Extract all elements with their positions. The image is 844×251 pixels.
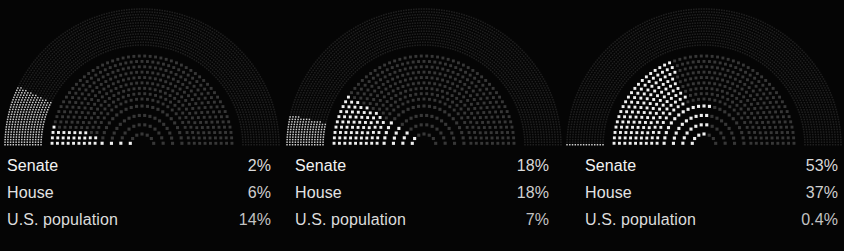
legend-value-house: 37% <box>806 179 838 206</box>
legend-label-population: U.S. population <box>585 206 696 233</box>
legend-row-senate: Senate 2% <box>0 152 282 179</box>
legend-row-population: U.S. population 7% <box>282 206 564 233</box>
legend-row-senate: Senate 53% <box>564 152 844 179</box>
legend-table-1: Senate 2% House 6% U.S. population 14% <box>0 152 282 251</box>
legend-value-senate: 53% <box>806 152 838 179</box>
legend-row-house: House 6% <box>0 179 282 206</box>
legend-label-house: House <box>7 179 54 206</box>
legend-row-house: House 37% <box>564 179 844 206</box>
chart-panel-2: Senate 18% House 18% U.S. population 7% <box>282 0 564 251</box>
chart-figure: Senate 2% House 6% U.S. population 14% S… <box>0 0 844 251</box>
dot-arc-svg-3 <box>564 0 844 152</box>
legend-row-population: U.S. population 0.4% <box>564 206 844 233</box>
chart-panel-3: Senate 53% House 37% U.S. population 0.4… <box>564 0 844 251</box>
dot-arc-svg-2 <box>282 0 564 152</box>
semicircle-dot-chart-1 <box>0 0 282 152</box>
legend-label-house: House <box>295 179 342 206</box>
legend-table-3: Senate 53% House 37% U.S. population 0.4… <box>564 152 844 251</box>
legend-value-senate: 18% <box>517 152 549 179</box>
chart-panel-1: Senate 2% House 6% U.S. population 14% <box>0 0 282 251</box>
legend-label-senate: Senate <box>7 152 58 179</box>
legend-table-2: Senate 18% House 18% U.S. population 7% <box>282 152 564 251</box>
legend-value-population: 7% <box>526 206 549 233</box>
legend-row-house: House 18% <box>282 179 564 206</box>
legend-label-senate: Senate <box>295 152 346 179</box>
legend-label-population: U.S. population <box>7 206 118 233</box>
legend-value-house: 6% <box>248 179 271 206</box>
legend-label-house: House <box>585 179 632 206</box>
legend-label-population: U.S. population <box>295 206 406 233</box>
dot-arc-svg-1 <box>0 0 282 152</box>
legend-row-senate: Senate 18% <box>282 152 564 179</box>
legend-value-population: 14% <box>239 206 271 233</box>
legend-value-senate: 2% <box>248 152 271 179</box>
legend-value-population: 0.4% <box>801 206 838 233</box>
semicircle-dot-chart-3 <box>564 0 844 152</box>
legend-label-senate: Senate <box>585 152 636 179</box>
legend-row-population: U.S. population 14% <box>0 206 282 233</box>
legend-value-house: 18% <box>517 179 549 206</box>
semicircle-dot-chart-2 <box>282 0 564 152</box>
